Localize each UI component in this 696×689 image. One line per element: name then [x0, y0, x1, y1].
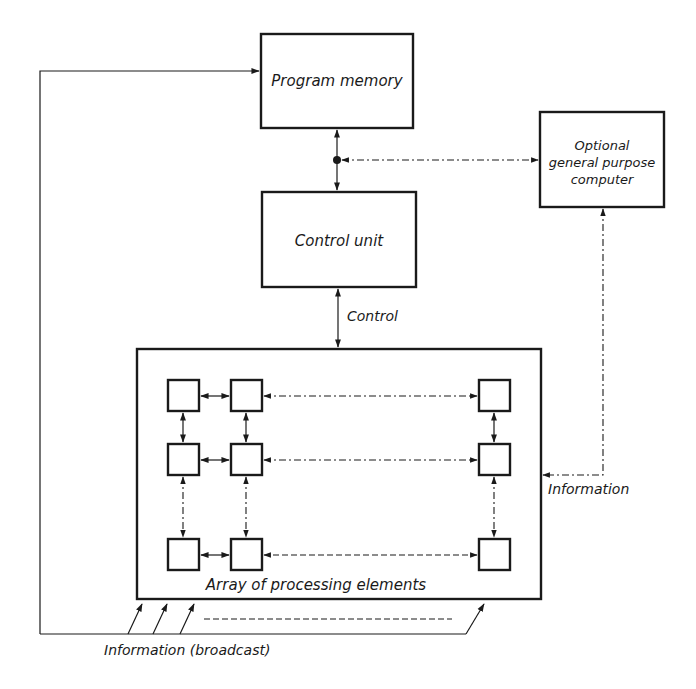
optional-computer-label-line-3: computer [571, 172, 635, 187]
pe-1-n [479, 380, 510, 411]
pe-2-n [479, 444, 510, 475]
pe-m-n [479, 539, 510, 570]
memory-control-link [333, 130, 341, 190]
pe-1-1 [168, 380, 199, 411]
pe-2-1 [168, 444, 199, 475]
optional-computer-label-line-1: Optional [575, 138, 630, 153]
junction-dot [333, 156, 341, 164]
control-unit-block: Control unit [262, 192, 416, 287]
processing-array-label: Array of processing elements [205, 576, 426, 594]
control-link: Control [338, 289, 398, 347]
control-link-label: Control [347, 308, 398, 324]
optional-computer-label-line-2: general purpose [549, 155, 655, 170]
information-link-label: Information [548, 481, 629, 497]
control-unit-label: Control unit [295, 232, 385, 250]
pe-m-2 [231, 539, 262, 570]
program-memory-block: Program memory [261, 34, 413, 128]
pe-2-2 [231, 444, 262, 475]
information-link: Information [543, 209, 629, 497]
optional-computer-block: Optional general purpose computer [540, 112, 664, 207]
array-processor-diagram: Program memory Control unit Optional gen… [0, 0, 696, 689]
pe-m-1 [168, 539, 199, 570]
pe-1-2 [231, 380, 262, 411]
broadcast-link-label: Information (broadcast) [104, 642, 270, 658]
program-memory-label: Program memory [271, 72, 403, 90]
